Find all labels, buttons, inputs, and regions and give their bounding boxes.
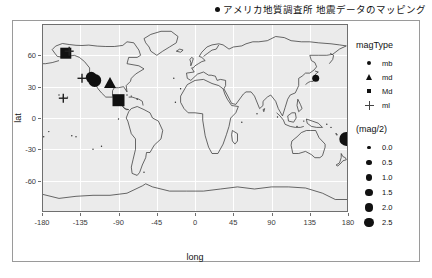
- size-marker-icon: [363, 142, 375, 154]
- y-tick-mark: [38, 118, 41, 119]
- chart-title-text: アメリカ地質調査所 地震データのマッピング: [223, 2, 426, 16]
- x-tick-mark: [348, 213, 349, 216]
- x-tick-mark: [195, 213, 196, 216]
- y-tick-mark: [38, 55, 41, 56]
- y-tick-label: 30: [14, 82, 36, 91]
- x-axis-title: long: [186, 252, 203, 262]
- data-point-mb: [312, 75, 319, 82]
- x-tick-label: 45: [229, 218, 237, 227]
- x-tick-label: 135: [303, 218, 316, 227]
- x-tick-label: -180: [34, 218, 49, 227]
- legend-shape-row[interactable]: mb: [356, 56, 426, 70]
- legend-shape-row[interactable]: md: [356, 70, 426, 84]
- x-tick-mark: [233, 213, 234, 216]
- legend-shape-items: mbmdMdml: [356, 56, 426, 112]
- figure-root: アメリカ地質調査所 地震データのマッピング -180-135-90-450459…: [0, 0, 432, 278]
- data-point-ml: [59, 94, 68, 103]
- x-tick-mark: [119, 213, 120, 216]
- legend-shape-row[interactable]: ml: [356, 98, 426, 112]
- plus-marker-icon: [363, 99, 375, 111]
- size-marker-icon: [363, 157, 375, 169]
- chart-title: アメリカ地質調査所 地震データのマッピング: [0, 2, 426, 16]
- legend-size-row[interactable]: 2.5: [356, 215, 426, 230]
- legend-shape-row[interactable]: Md: [356, 84, 426, 98]
- legend-size-row[interactable]: 1.5: [356, 185, 426, 200]
- legend-size-label: 1.0: [382, 173, 392, 182]
- legend-shape-label: md: [382, 73, 392, 82]
- size-marker-icon: [363, 172, 375, 184]
- legend-size-label: 0.5: [382, 158, 392, 167]
- data-point-mb: [86, 72, 97, 83]
- y-tick-label: -30: [14, 145, 36, 154]
- size-marker-icon: [363, 202, 375, 214]
- legend-size-label: 2.5: [382, 218, 392, 227]
- triangle-marker-icon: [363, 71, 375, 83]
- data-points-layer: [42, 24, 348, 212]
- size-marker-icon: [363, 217, 375, 229]
- x-tick-label: -135: [73, 218, 88, 227]
- bullet-point-icon: [215, 7, 220, 12]
- x-tick-mark: [272, 213, 273, 216]
- legend-size-label: 0.0: [382, 143, 392, 152]
- data-point-ml: [78, 74, 87, 83]
- legend: magType mbmdMdml (mag/2) 0.00.51.01.52.0…: [356, 40, 426, 230]
- x-tick-mark: [310, 213, 311, 216]
- plot-panel: [42, 24, 348, 212]
- x-tick-label: 90: [267, 218, 275, 227]
- x-tick-label: 180: [342, 218, 355, 227]
- legend-size-row[interactable]: 2.0: [356, 200, 426, 215]
- legend-size-label: 2.0: [382, 203, 392, 212]
- x-tick-label: -90: [113, 218, 124, 227]
- square-marker-icon: [363, 85, 375, 97]
- x-tick-label: -45: [151, 218, 162, 227]
- size-marker-icon: [363, 187, 375, 199]
- y-tick-mark: [38, 149, 41, 150]
- data-point-Md: [113, 94, 125, 106]
- legend-size-row[interactable]: 1.0: [356, 170, 426, 185]
- x-tick-label: 0: [193, 218, 197, 227]
- data-point-md: [104, 77, 116, 88]
- circle-marker-icon: [363, 57, 375, 69]
- x-tick-mark: [157, 213, 158, 216]
- data-point-mb: [339, 132, 348, 146]
- y-axis-title: lat: [13, 113, 23, 123]
- y-tick-mark: [38, 181, 41, 182]
- legend-size-row[interactable]: 0.5: [356, 155, 426, 170]
- legend-shape-label: Md: [382, 87, 392, 96]
- legend-shape-title: magType: [356, 40, 426, 50]
- y-tick-label: 60: [14, 51, 36, 60]
- legend-shape-label: mb: [382, 59, 392, 68]
- legend-size-row[interactable]: 0.0: [356, 140, 426, 155]
- y-tick-mark: [38, 87, 41, 88]
- legend-size-items: 0.00.51.01.52.02.5: [356, 140, 426, 230]
- legend-size-title: (mag/2): [356, 124, 426, 134]
- x-tick-mark: [80, 213, 81, 216]
- legend-shape-label: ml: [382, 101, 390, 110]
- y-tick-label: -60: [14, 176, 36, 185]
- legend-size-label: 1.5: [382, 188, 392, 197]
- x-tick-mark: [42, 213, 43, 216]
